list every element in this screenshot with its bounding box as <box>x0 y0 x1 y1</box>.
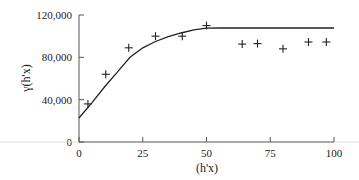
x-axis-label: (h'x) <box>196 161 218 175</box>
plus-marker <box>279 45 287 53</box>
y-tick-label: 40,000 <box>42 94 73 106</box>
x-tick-label: 50 <box>201 147 213 159</box>
plus-marker <box>254 40 262 48</box>
plus-marker <box>152 32 160 40</box>
y-tick-label: 80,000 <box>42 51 73 63</box>
plus-marker <box>322 38 330 46</box>
plus-marker <box>238 40 246 48</box>
x-tick-label: 25 <box>137 147 149 159</box>
x-tick-label: 0 <box>76 147 82 159</box>
plus-marker <box>125 44 133 52</box>
data-point-markers <box>84 22 330 108</box>
y-axis-label: γ(h'x) <box>19 64 33 92</box>
plus-marker <box>84 100 92 108</box>
plus-marker <box>305 38 313 46</box>
semivariogram-chart: 040,00080,000120,000 0255075100 γ(h'x) (… <box>0 0 359 180</box>
y-axis: 040,00080,000120,000 <box>0 9 84 148</box>
plus-marker <box>102 70 110 78</box>
x-tick-label: 75 <box>265 147 277 159</box>
x-tick-label: 100 <box>326 147 343 159</box>
fitted-model-curve <box>79 28 334 118</box>
y-tick-label: 120,000 <box>36 9 72 21</box>
x-axis: 0255075100 <box>76 137 359 159</box>
